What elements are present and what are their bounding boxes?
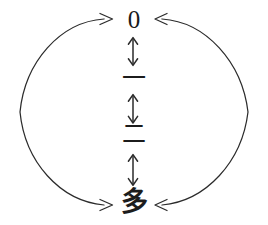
connector-zero-one-double-arrow — [128, 38, 137, 66]
diagram-canvas: 一 --> 二 --> 多 --> 0 一 二 多 — [0, 0, 268, 225]
node-label-many: 多 — [0, 188, 268, 215]
node-label-one: 一 — [0, 66, 268, 90]
left-arc-path — [20, 19, 104, 205]
right-arc-connector — [155, 14, 248, 211]
connector-one-two-double-arrow — [128, 95, 137, 123]
node-label-zero: 0 — [0, 7, 268, 32]
right-arc-path — [162, 19, 248, 205]
center-ladder: 一 --> 二 --> 多 --> — [128, 38, 137, 186]
connector-two-many-double-arrow — [128, 155, 137, 186]
node-label-two: 二 — [0, 122, 268, 146]
left-arc-connector — [20, 14, 113, 211]
